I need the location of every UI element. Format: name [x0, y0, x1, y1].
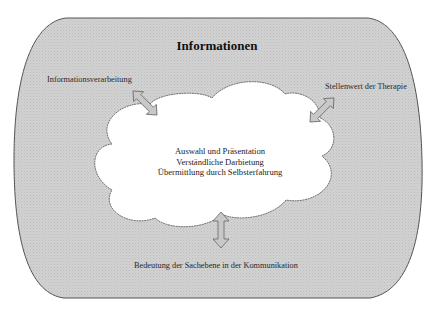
diagram-title: Informationen [0, 38, 434, 54]
label-informationsverarbeitung: Informationsverarbeitung [47, 75, 132, 84]
cloud-text-block: Auswahl und Präsentation Verständliche D… [130, 146, 310, 178]
cloud-line-darbietung: Verständliche Darbietung [130, 157, 310, 168]
cloud-line-auswahl: Auswahl und Präsentation [130, 146, 310, 157]
cloud-line-selbsterfahrung: Übermittlung durch Selbsterfahrung [130, 167, 310, 178]
label-bedeutung-der-sachebene: Bedeutung der Sachebene in der Kommunika… [134, 261, 298, 270]
label-stellenwert-der-therapie: Stellenwert der Therapie [325, 82, 407, 91]
